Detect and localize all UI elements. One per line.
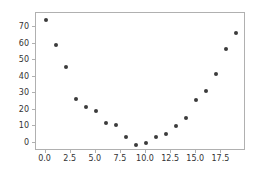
y-tick-mark — [32, 76, 35, 77]
data-point — [84, 105, 88, 109]
x-tick-label: 17.5 — [211, 154, 229, 163]
y-tick-mark — [32, 142, 35, 143]
x-tick-label: 0.0 — [38, 154, 51, 163]
y-tick-label: 30 — [7, 88, 29, 97]
data-point — [154, 135, 158, 139]
data-point — [44, 18, 48, 22]
plot-data-area — [36, 13, 244, 149]
scatter-plot-figure: 0.02.55.07.510.012.515.017.5 01020304050… — [0, 0, 257, 177]
data-point — [164, 132, 168, 136]
data-point — [144, 141, 148, 145]
x-tick-label: 7.5 — [114, 154, 127, 163]
data-point — [124, 135, 128, 139]
y-tick-mark — [32, 92, 35, 93]
x-tick-label: 5.0 — [88, 154, 101, 163]
data-point — [234, 31, 238, 35]
data-point — [114, 123, 118, 127]
y-tick-label: 20 — [7, 104, 29, 113]
x-tick-mark — [120, 150, 121, 153]
x-tick-label: 15.0 — [186, 154, 204, 163]
data-point — [174, 124, 178, 128]
data-point — [204, 89, 208, 93]
x-tick-mark — [220, 150, 221, 153]
data-point — [64, 65, 68, 69]
y-tick-label: 50 — [7, 55, 29, 64]
y-tick-mark — [32, 125, 35, 126]
x-tick-label: 12.5 — [161, 154, 179, 163]
data-point — [214, 72, 218, 76]
x-tick-mark — [95, 150, 96, 153]
data-point — [194, 98, 198, 102]
x-tick-mark — [70, 150, 71, 153]
data-point — [224, 47, 228, 51]
data-point — [134, 143, 138, 147]
y-tick-mark — [32, 109, 35, 110]
x-tick-mark — [170, 150, 171, 153]
data-point — [54, 43, 58, 47]
y-tick-mark — [32, 43, 35, 44]
data-point — [74, 97, 78, 101]
y-tick-label: 60 — [7, 38, 29, 47]
x-tick-mark — [195, 150, 196, 153]
y-tick-label: 0 — [7, 137, 29, 146]
x-tick-mark — [145, 150, 146, 153]
plot-axes-frame — [35, 12, 245, 150]
y-tick-mark — [32, 59, 35, 60]
y-tick-label: 70 — [7, 22, 29, 31]
y-tick-label: 10 — [7, 121, 29, 130]
data-point — [104, 121, 108, 125]
y-tick-label: 40 — [7, 71, 29, 80]
data-point — [94, 109, 98, 113]
x-tick-label: 10.0 — [136, 154, 154, 163]
data-point — [184, 116, 188, 120]
x-tick-label: 2.5 — [63, 154, 76, 163]
y-tick-mark — [32, 26, 35, 27]
x-tick-mark — [45, 150, 46, 153]
